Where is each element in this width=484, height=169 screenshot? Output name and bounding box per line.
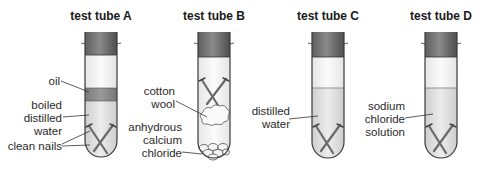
stopper [85,32,117,55]
tube-c [308,32,348,158]
label-boiled-water-1: boiled [31,98,62,112]
label-anhydrous-3: chloride [142,146,182,160]
label-sodium-chloride-3: solution [365,125,405,139]
label-boiled-water-2: distilled [24,111,62,125]
tube-a [81,32,121,157]
label-distilled-water-1: distilled [252,104,290,118]
label-anhydrous-2: calcium [143,133,182,147]
experiment-diagram [0,0,484,169]
stopper [425,32,457,57]
stopper [198,32,230,57]
label-cotton-wool-2: wool [151,97,175,111]
label-distilled-water-2: water [262,117,290,131]
label-sodium-chloride-1: sodium [368,99,405,113]
label-clean-nails: clean nails [8,139,62,153]
label-sodium-chloride-2: chloride [365,112,405,126]
label-boiled-water-3: water [34,124,62,138]
tube-d [421,32,461,158]
label-cotton-wool-1: cotton [144,84,175,98]
oil-layer [85,88,117,101]
tube-b [194,32,234,160]
label-anhydrous-1: anhydrous [128,120,182,134]
stopper [312,32,344,57]
label-oil: oil [48,74,60,88]
